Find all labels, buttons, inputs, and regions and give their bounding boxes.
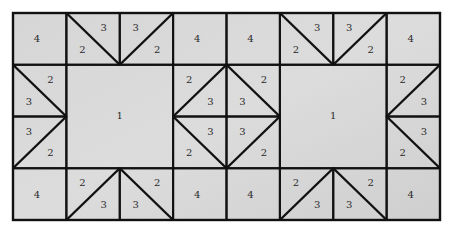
piece-label: 2 <box>399 147 405 158</box>
piece-label: 3 <box>346 22 352 33</box>
piece-label: 4 <box>34 189 40 200</box>
piece-label: 3 <box>207 96 213 107</box>
piece-label: 3 <box>421 126 427 137</box>
piece-label: 1 <box>117 110 123 121</box>
piece-label: 2 <box>399 74 405 85</box>
piece-label: 3 <box>346 199 352 210</box>
piece-label: 4 <box>407 33 413 44</box>
piece-label: 3 <box>314 199 320 210</box>
piece-label: 2 <box>79 44 85 55</box>
piece-label: 4 <box>407 189 413 200</box>
piece-label: 2 <box>47 147 53 158</box>
piece-label: 3 <box>421 96 427 107</box>
piece-label: 2 <box>293 44 299 55</box>
piece-label: 2 <box>367 44 373 55</box>
piece-label: 2 <box>154 44 160 55</box>
piece-label: 2 <box>79 177 85 188</box>
piece-label: 2 <box>261 147 267 158</box>
piece-label: 3 <box>207 126 213 137</box>
piece-label: 3 <box>133 199 139 210</box>
piece-label: 2 <box>186 147 192 158</box>
piece-label: 3 <box>133 22 139 33</box>
piece-label: 3 <box>239 126 245 137</box>
piece-label: 3 <box>101 199 107 210</box>
piece-label: 3 <box>239 96 245 107</box>
piece-label: 3 <box>314 22 320 33</box>
piece-label: 2 <box>186 74 192 85</box>
piece-label: 3 <box>26 96 32 107</box>
piece-label: 3 <box>26 126 32 137</box>
quilt-diagram: 4323244323242323322332323232423234423234… <box>0 0 449 232</box>
piece-label: 2 <box>293 177 299 188</box>
piece-label: 4 <box>34 33 40 44</box>
piece-label: 2 <box>261 74 267 85</box>
piece-label: 2 <box>47 74 53 85</box>
piece-label: 4 <box>247 189 253 200</box>
piece-label: 4 <box>247 33 253 44</box>
piece-label: 1 <box>330 110 336 121</box>
piece-label: 4 <box>194 189 200 200</box>
piece-label: 2 <box>154 177 160 188</box>
piece-label: 2 <box>367 177 373 188</box>
piece-label: 4 <box>194 33 200 44</box>
piece-label: 3 <box>101 22 107 33</box>
